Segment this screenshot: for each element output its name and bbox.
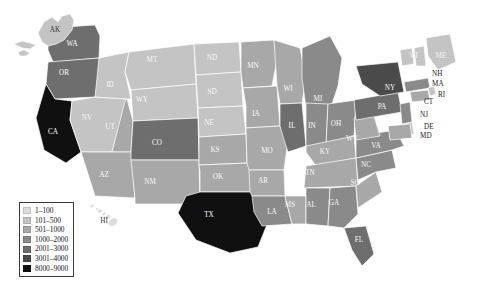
legend-swatch-4: [23, 236, 31, 243]
legend-label-1: 1–100: [35, 206, 53, 216]
state-ok[interactable]: [199, 163, 252, 192]
legend-row-2: 101–500: [23, 216, 68, 226]
legend-swatch-5: [23, 246, 31, 253]
inset-label-hi: HI: [100, 217, 108, 225]
legend-row-7: 8000–9000: [23, 264, 68, 274]
state-sd[interactable]: [196, 72, 243, 108]
legend-label-3: 501–1000: [35, 225, 65, 235]
callout-label-md: MD: [420, 132, 432, 140]
state-nh[interactable]: [414, 46, 426, 66]
state-nd[interactable]: [194, 42, 241, 75]
state-or[interactable]: [46, 58, 103, 99]
callout-label-ri: RI: [438, 91, 446, 99]
state-wy[interactable]: [131, 84, 198, 121]
state-mn[interactable]: [241, 40, 277, 88]
state-ne[interactable]: [198, 106, 246, 137]
callout-label-ct: CT: [424, 98, 434, 106]
legend-label-7: 8000–9000: [35, 264, 68, 274]
legend-swatch-3: [23, 226, 31, 233]
state-id[interactable]: [95, 52, 131, 99]
legend: 1–100101–500501–10001000–20002001–300030…: [19, 202, 74, 277]
callout-label-de: DE: [424, 123, 434, 131]
state-ar[interactable]: [249, 170, 285, 196]
state-vt[interactable]: [400, 48, 414, 66]
state-ks[interactable]: [199, 134, 247, 165]
legend-row-1: 1–100: [23, 206, 68, 216]
state-co[interactable]: [131, 118, 199, 160]
callout-label-ma: MA: [432, 80, 444, 88]
legend-label-6: 3001–4000: [35, 254, 68, 264]
state-md[interactable]: [388, 124, 412, 140]
state-in[interactable]: [306, 103, 328, 146]
legend-row-5: 2001–3000: [23, 244, 68, 254]
legend-swatch-1: [23, 207, 31, 214]
inset-label-ak: AK: [50, 26, 61, 34]
state-mt[interactable]: [125, 44, 196, 90]
legend-swatch-7: [23, 265, 31, 272]
legend-swatch-6: [23, 255, 31, 262]
legend-row-4: 1000–2000: [23, 235, 68, 245]
state-al[interactable]: [306, 188, 330, 226]
legend-swatch-2: [23, 217, 31, 224]
legend-row-3: 501–1000: [23, 225, 68, 235]
callout-label-nh: NH: [432, 70, 442, 78]
state-ia[interactable]: [243, 86, 280, 128]
legend-row-6: 3001–4000: [23, 254, 68, 264]
legend-label-5: 2001–3000: [35, 244, 68, 254]
legend-label-4: 1000–2000: [35, 235, 68, 245]
state-nj[interactable]: [400, 102, 412, 124]
callout-label-nj: NJ: [420, 111, 428, 119]
legend-label-2: 101–500: [35, 216, 61, 226]
